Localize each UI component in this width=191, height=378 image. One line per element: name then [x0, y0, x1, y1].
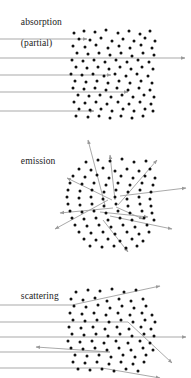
particle-dot: [95, 239, 98, 242]
particle-dot: [76, 52, 79, 55]
particle-dot: [110, 226, 113, 229]
particle-dot: [107, 219, 110, 222]
particle-dot: [126, 168, 129, 171]
particle-dot: [108, 363, 111, 366]
particle-dot: [133, 161, 136, 164]
particle-dot: [118, 45, 121, 48]
particle-dot: [79, 341, 82, 344]
particle-dot: [75, 115, 78, 118]
particle-dot: [119, 66, 122, 69]
particle-dot: [150, 205, 153, 208]
particle-dot: [83, 30, 86, 33]
particle-dot: [85, 161, 88, 164]
particle-dot: [141, 182, 144, 185]
particle-dot: [122, 354, 125, 357]
particle-dot: [137, 370, 140, 373]
particle-dot: [98, 52, 101, 55]
particle-dot: [70, 298, 73, 301]
particle-dot: [103, 205, 106, 208]
particle-dot: [107, 238, 110, 241]
particle-dot: [150, 328, 153, 331]
particle-dot: [78, 197, 81, 200]
particle-dot: [143, 333, 146, 336]
particle-dot: [154, 177, 157, 180]
particle-dot: [147, 75, 150, 78]
particle-dot: [74, 224, 77, 227]
particle-dot: [115, 189, 118, 192]
particle-dot: [128, 30, 131, 33]
particle-dot: [138, 170, 141, 173]
particle-dot: [105, 89, 108, 92]
particle-dot: [86, 225, 89, 228]
particle-dot: [88, 95, 91, 98]
particle-dot: [111, 110, 114, 113]
particle-dot: [130, 300, 133, 303]
particle-dot: [98, 354, 101, 357]
particle-dot: [90, 232, 93, 235]
particle-dot: [137, 59, 140, 62]
particle-dot: [140, 326, 143, 329]
particle-dot: [92, 73, 95, 76]
diagram-canvas: [0, 0, 191, 378]
particle-dot: [93, 312, 96, 315]
particle-dot: [110, 96, 113, 99]
particle-dot: [149, 168, 152, 171]
particle-dot: [91, 203, 94, 206]
particle-dot: [131, 117, 134, 120]
particle-dot: [107, 47, 110, 50]
particle-dot: [99, 94, 102, 97]
particle-dot: [72, 87, 75, 90]
particle-dot: [92, 326, 95, 329]
particle-dot: [143, 94, 146, 97]
particle-dot: [78, 38, 81, 41]
particle-dot: [141, 312, 144, 315]
particle-dot: [152, 68, 155, 71]
particle-dot: [144, 108, 147, 111]
particle-dot: [120, 115, 123, 118]
particle-dot: [122, 38, 125, 41]
particle-dot: [105, 314, 108, 317]
particle-dot: [118, 80, 121, 83]
particle-dot: [149, 30, 152, 33]
particle-dot: [121, 158, 124, 161]
particle-dot: [145, 354, 148, 357]
particle-dot: [86, 355, 89, 358]
particle-dot: [136, 245, 139, 248]
particle-dot: [67, 189, 70, 192]
particle-dot: [87, 116, 90, 119]
particle-dot: [122, 224, 125, 227]
particle-dot: [131, 238, 134, 241]
particle-dot: [90, 169, 93, 172]
particle-dot: [128, 328, 131, 331]
particle-dots-group: [66, 29, 157, 373]
particle-dot: [91, 189, 94, 192]
particle-dot: [127, 342, 130, 345]
particle-dot: [140, 44, 143, 47]
particle-dot: [133, 40, 136, 43]
particle-dot: [117, 32, 120, 35]
particle-dot: [129, 314, 132, 317]
particle-dot: [139, 101, 142, 104]
particle-dot: [103, 191, 106, 194]
particle-dot: [81, 74, 84, 77]
particle-dot: [116, 326, 119, 329]
particle-dot: [71, 333, 74, 336]
particle-dot: [104, 61, 107, 64]
particle-dot: [100, 37, 103, 40]
particle-dot: [70, 347, 73, 350]
particle-dot: [115, 59, 118, 62]
particle-dot: [105, 29, 108, 32]
particle-dot: [97, 304, 100, 307]
particle-dot: [104, 328, 107, 331]
particle-dot: [72, 361, 75, 364]
particle-dot: [126, 231, 129, 234]
ray-line: [72, 286, 160, 305]
particle-dot: [135, 289, 138, 292]
particle-dot: [129, 47, 132, 50]
particle-dot: [128, 103, 131, 106]
particle-dot: [75, 66, 78, 69]
particle-dot: [148, 61, 151, 64]
particle-dot: [142, 115, 145, 118]
particle-dot: [81, 211, 84, 214]
particle-dot: [113, 245, 116, 248]
